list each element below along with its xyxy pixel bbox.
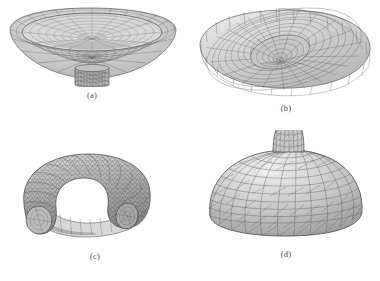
panel-label-c: (c) xyxy=(10,251,180,261)
mesh-bent-tube-partial-torus xyxy=(10,142,180,246)
figure-panel-a: (a) xyxy=(4,6,180,110)
figure-panel-c: (c) xyxy=(10,142,180,268)
panel-label-b: (b) xyxy=(196,103,376,113)
panel-label-a: (a) xyxy=(4,90,180,100)
bottom-scan-artifact xyxy=(0,271,380,281)
figure-panel-b: (b) xyxy=(196,4,376,122)
mesh-dome-with-neck xyxy=(196,130,376,244)
figure-panel-d: (d) xyxy=(196,130,376,268)
mesh-torus-bowl-with-funnel xyxy=(196,4,376,100)
mesh-shallow-bowl-with-stem xyxy=(4,6,180,88)
panel-label-d: (d) xyxy=(196,249,376,259)
figure-sheet: (a) xyxy=(0,0,380,281)
